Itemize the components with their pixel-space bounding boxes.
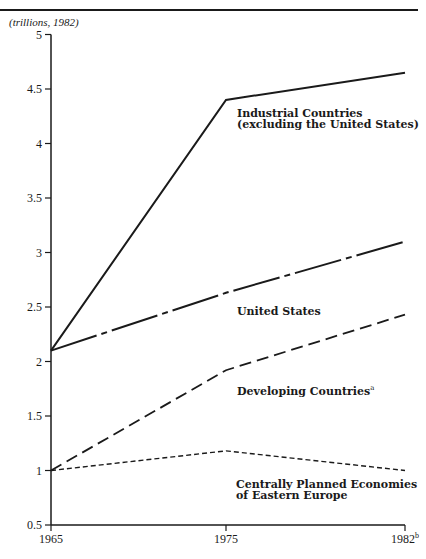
series-label-industrial: Industrial Countries (excluding the Unit… [237, 108, 419, 130]
y-tick-label: 1 [36, 464, 42, 478]
y-tick-label: 0.5 [27, 518, 42, 532]
x-tick-label: 1965 [39, 532, 63, 546]
series-label-centrally-planned: Centrally Planned Economies of Eastern E… [236, 479, 417, 501]
series-line-3 [51, 451, 405, 471]
x-tick-label: 1975 [214, 532, 238, 546]
y-tick-label: 2 [36, 355, 42, 369]
y-tick-label: 3 [36, 246, 42, 260]
line-chart: 0.511.522.533.544.55196519751982b [0, 0, 426, 559]
series-label-developing: Developing Countriesa [237, 383, 374, 397]
series-label-united-states: United States [237, 306, 321, 317]
x-tick-label: 1982b [391, 531, 419, 546]
y-tick-label: 1.5 [27, 409, 42, 423]
y-tick-label: 3.5 [27, 191, 42, 205]
y-tick-label: 4 [36, 137, 42, 151]
y-tick-label: 4.5 [27, 82, 42, 96]
y-tick-label: 2.5 [27, 300, 42, 314]
y-tick-label: 5 [36, 28, 42, 42]
series-line-1 [51, 242, 405, 351]
